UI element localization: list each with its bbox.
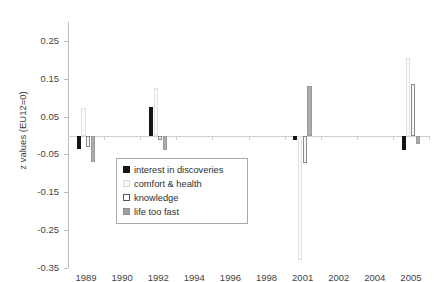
x-tick-mark (321, 136, 322, 140)
y-tick-mark (64, 268, 68, 269)
bar-comfort-health-2001 (298, 136, 302, 261)
bar-life-too-fast-1989 (91, 136, 95, 162)
y-tick-label: -0.15 (19, 186, 59, 197)
bar-comfort-health-1992 (154, 88, 158, 135)
x-tick-mark (285, 136, 286, 140)
x-tick-mark (429, 136, 430, 140)
y-axis-line (68, 22, 69, 268)
legend: interest in discoveries comfort & health… (116, 158, 248, 224)
y-tick-mark (64, 79, 68, 80)
bar-life-too-fast-2005 (416, 136, 420, 144)
x-tick-mark (357, 136, 358, 140)
legend-label: interest in discoveries (134, 165, 223, 175)
legend-swatch-icon (123, 208, 130, 215)
x-tick-label: 2005 (389, 272, 433, 282)
bar-knowledge-2001 (303, 136, 307, 163)
y-tick-label: 0.25 (19, 35, 59, 46)
bar-interest-in-discoveries-1992 (149, 107, 153, 135)
legend-swatch-icon (123, 180, 130, 187)
x-tick-mark (140, 136, 141, 140)
bar-life-too-fast-1992 (163, 136, 167, 150)
legend-item: life too fast (123, 205, 242, 218)
legend-label: life too fast (134, 207, 179, 217)
bar-interest-in-discoveries-1989 (77, 136, 81, 149)
legend-item: comfort & health (123, 177, 242, 190)
bar-interest-in-discoveries-2001 (293, 136, 297, 141)
y-tick-label: -0.05 (19, 148, 59, 159)
bar-comfort-health-1989 (81, 108, 85, 135)
bar-chart: z values (EU12=0) 0.250.150.05-0.05-0.15… (0, 0, 439, 282)
plot-area: 0.250.150.05-0.05-0.15-0.25-0.35 1989199… (68, 22, 429, 268)
y-tick-mark (64, 41, 68, 42)
y-tick-mark (64, 230, 68, 231)
legend-swatch-icon (123, 166, 130, 173)
bar-interest-in-discoveries-2005 (402, 136, 406, 150)
y-tick-mark (64, 192, 68, 193)
bar-comfort-health-2005 (406, 58, 410, 136)
x-tick-mark (212, 136, 213, 140)
legend-swatch-icon (123, 194, 130, 201)
y-tick-label: 0.05 (19, 111, 59, 122)
legend-item: knowledge (123, 191, 242, 204)
y-tick-mark (64, 154, 68, 155)
y-tick-mark (64, 117, 68, 118)
bar-knowledge-2005 (411, 84, 415, 135)
x-tick-mark (176, 136, 177, 140)
bar-knowledge-1989 (86, 136, 90, 147)
x-tick-mark (249, 136, 250, 140)
y-tick-label: -0.25 (19, 224, 59, 235)
legend-label: knowledge (134, 193, 178, 203)
bar-knowledge-1992 (158, 136, 162, 141)
bar-life-too-fast-2001 (307, 86, 311, 135)
legend-label: comfort & health (134, 179, 202, 189)
y-tick-label: -0.35 (19, 262, 59, 273)
y-tick-label: 0.15 (19, 73, 59, 84)
x-tick-mark (104, 136, 105, 140)
x-tick-mark (393, 136, 394, 140)
legend-item: interest in discoveries (123, 163, 242, 176)
